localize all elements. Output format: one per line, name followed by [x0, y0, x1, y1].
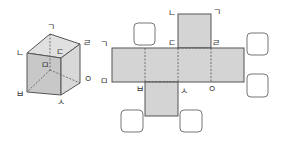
answer-box-bottom-right[interactable]	[180, 110, 202, 132]
net-label-bottom-3: ㅇ	[208, 84, 216, 94]
net-label-top-left: ㄴ	[168, 8, 176, 18]
answer-box-top-left[interactable]	[134, 23, 155, 45]
net-label-mid-right: ㄹ	[212, 38, 220, 48]
cube-net: ㄴ ㄱ ㄷ ㄹ ㄱ ㅁ ㅂ ㅅ ㅇ	[100, 7, 244, 116]
net-label-strip-top-left: ㄱ	[100, 39, 108, 49]
cube-label-bottom-back-right: ㅇ	[84, 74, 92, 84]
cube: ㄱ ㄴ ㄷ ㄹ ㅁ ㅂ ㅅ ㅇ	[16, 22, 92, 107]
net-bottom-square	[145, 82, 178, 116]
figure: ㄱ ㄴ ㄷ ㄹ ㅁ ㅂ ㅅ ㅇ ㄴ ㄱ ㄷ ㄹ ㄱ ㅁ ㅂ ㅅ ㅇ	[0, 0, 287, 144]
cube-label-top-back-right: ㄹ	[83, 38, 91, 48]
answer-box-right-top[interactable]	[247, 33, 268, 55]
answer-box-bottom-left[interactable]	[121, 110, 143, 132]
net-top-square	[178, 14, 211, 48]
cube-label-bottom-front-left: ㅂ	[16, 89, 24, 99]
net-label-top-right: ㄱ	[213, 7, 221, 17]
cube-label-top-front-left: ㄴ	[16, 48, 24, 58]
cube-label-top-front-right: ㄷ	[56, 47, 64, 57]
net-label-mid-left: ㄷ	[168, 38, 176, 48]
cube-label-top-back-left: ㄱ	[47, 22, 55, 32]
cube-label-bottom-back-left: ㅁ	[41, 60, 49, 70]
net-label-bottom-1: ㅂ	[136, 84, 144, 94]
answer-box-right-bottom[interactable]	[247, 74, 268, 97]
cube-label-bottom-front-right: ㅅ	[57, 97, 65, 107]
net-label-bottom-2: ㅅ	[180, 86, 188, 96]
net-label-strip-bottom-left: ㅁ	[100, 76, 108, 86]
